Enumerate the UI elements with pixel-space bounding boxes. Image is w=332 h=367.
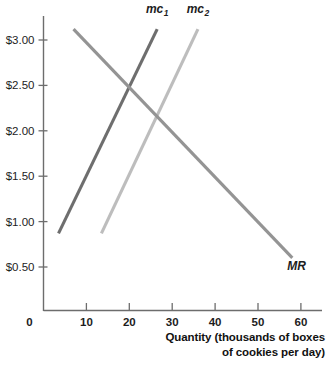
series-lines-group bbox=[59, 29, 293, 258]
y-tick-label: $0.50 bbox=[6, 261, 35, 273]
y-axis-ticks: $0.50$1.00$1.50$2.00$2.50$3.00 bbox=[6, 34, 48, 273]
y-tick-label: $1.50 bbox=[6, 170, 35, 182]
y-tick-label: $2.50 bbox=[6, 79, 35, 91]
y-tick-label: $2.00 bbox=[6, 125, 35, 137]
x-tick-label: 10 bbox=[80, 316, 93, 328]
x-axis-caption-line-2: of cookies per day) bbox=[110, 345, 325, 360]
y-tick-label: $1.00 bbox=[6, 216, 35, 228]
x-tick-label: 30 bbox=[166, 316, 179, 328]
x-axis-ticks: 0102030405060 bbox=[26, 303, 307, 328]
x-axis-caption-line-1: Quantity (thousands of boxes bbox=[110, 330, 325, 345]
x-tick-label: 50 bbox=[252, 316, 265, 328]
series-labels-group: mc1mc2MR bbox=[146, 2, 306, 273]
series-line-mc2 bbox=[101, 29, 198, 233]
x-axis-caption: Quantity (thousands of boxes of cookies … bbox=[110, 330, 325, 359]
x-tick-label: 20 bbox=[123, 316, 136, 328]
x-tick-label: 60 bbox=[295, 316, 308, 328]
series-label-mc2: mc2 bbox=[187, 2, 210, 18]
series-line-mc1 bbox=[59, 29, 158, 233]
x-tick-label: 0 bbox=[26, 316, 32, 328]
price-quantity-line-chart: $0.50$1.00$1.50$2.00$2.50$3.00 010203040… bbox=[0, 0, 332, 367]
series-label-mc1: mc1 bbox=[146, 2, 169, 18]
y-tick-label: $3.00 bbox=[6, 34, 35, 46]
chart-container: $0.50$1.00$1.50$2.00$2.50$3.00 010203040… bbox=[0, 0, 332, 367]
x-tick-label: 40 bbox=[209, 316, 222, 328]
series-label-MR: MR bbox=[287, 259, 306, 273]
